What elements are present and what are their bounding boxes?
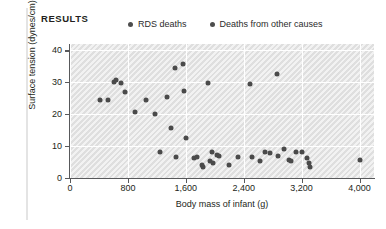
scatter-point (257, 158, 262, 163)
x-axis-tick-label: 1,600 (175, 184, 198, 193)
scatter-point (289, 158, 294, 163)
scatter-point (293, 149, 298, 154)
scatter-point (153, 111, 158, 116)
legend-marker-icon (210, 22, 215, 27)
scatter-point (227, 162, 232, 167)
figure-panel: RESULTS RDS deaths Deaths from other cau… (0, 0, 386, 229)
y-axis-title: Surface tension (dynes/cm) (27, 0, 37, 131)
scatter-point (169, 126, 174, 131)
x-axis-tick-label: 4,000 (348, 184, 371, 193)
y-axis-tick (65, 82, 69, 83)
scatter-point (217, 153, 222, 158)
y-axis-tick (65, 50, 69, 51)
x-axis-tick-label: 3,200 (290, 184, 313, 193)
y-axis-tick (65, 114, 69, 115)
gridline-horizontal (70, 50, 374, 51)
y-axis-line (69, 44, 70, 179)
scatter-point (180, 61, 185, 66)
y-axis-tick-label: 0 (40, 174, 62, 183)
scatter-point (123, 89, 128, 94)
legend-item-rds-deaths: RDS deaths (128, 20, 187, 29)
scatter-point (308, 165, 313, 170)
scatter-point (357, 158, 362, 163)
scatter-point (172, 65, 177, 70)
legend-marker-icon (128, 22, 133, 27)
scatter-point (276, 153, 281, 158)
scatter-point (118, 80, 123, 85)
x-axis-line (69, 178, 375, 179)
scatter-point (235, 154, 240, 159)
scatter-point (158, 149, 163, 154)
scatter-point (247, 81, 252, 86)
y-axis-tick-label: 20 (40, 110, 62, 119)
y-axis-tick-label: 10 (40, 142, 62, 151)
y-axis-tick-label: 30 (40, 78, 62, 87)
legend-label: Deaths from other causes (220, 20, 323, 29)
x-axis-tick-label: 0 (67, 184, 72, 193)
scatter-point (205, 80, 210, 85)
scatter-point (282, 147, 287, 152)
scatter-point (267, 150, 272, 155)
scatter-point (133, 109, 138, 114)
x-axis-tick-label: 2,400 (232, 184, 255, 193)
legend-label: RDS deaths (138, 20, 187, 29)
gridline-horizontal (70, 114, 374, 115)
y-axis-tick (65, 178, 69, 179)
scatter-plot-area (70, 44, 374, 178)
scatter-point (164, 94, 169, 99)
x-axis-tick-label: 800 (120, 184, 135, 193)
scatter-point (299, 149, 304, 154)
gridline-vertical (186, 44, 187, 178)
scatter-point (305, 155, 310, 160)
scatter-point (181, 88, 186, 93)
gridline-vertical (128, 44, 129, 178)
x-axis-title: Body mass of infant (g) (70, 199, 374, 209)
legend-item-other-causes: Deaths from other causes (210, 20, 323, 29)
chart-legend: RDS deaths Deaths from other causes (128, 20, 323, 29)
scatter-point (195, 154, 200, 159)
gridline-vertical (244, 44, 245, 178)
scatter-point (211, 161, 216, 166)
scatter-point (275, 71, 280, 76)
scatter-point (201, 164, 206, 169)
scatter-point (105, 98, 110, 103)
y-axis-tick-label: 40 (40, 46, 62, 55)
scatter-point (144, 97, 149, 102)
y-axis-tick (65, 146, 69, 147)
scatter-point (173, 154, 178, 159)
scatter-point (250, 154, 255, 159)
scatter-point (98, 98, 103, 103)
scatter-point (183, 135, 188, 140)
y-axis-tick-labels: 010203040 (40, 0, 62, 229)
gridline-horizontal (70, 146, 374, 147)
gridline-vertical (302, 44, 303, 178)
